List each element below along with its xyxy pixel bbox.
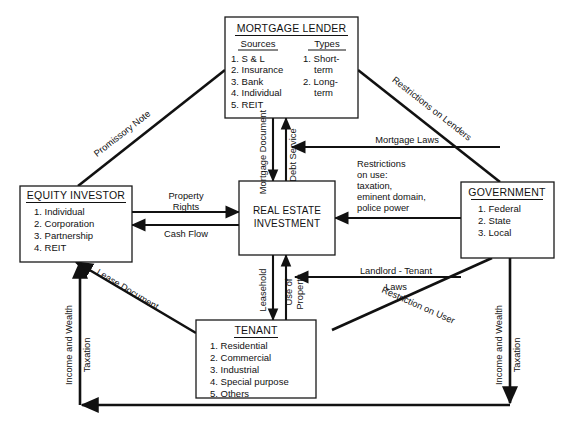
edge-label-mortgage-laws: Mortgage Laws: [375, 135, 439, 145]
node-mortgage-lender-source-1: 1. S & L: [231, 53, 265, 64]
node-mortgage-lender-type-1-cont: term: [314, 64, 333, 75]
node-tenant-item-2: 2. Commercial: [210, 352, 271, 363]
node-government[interactable]: GOVERNMENT 1. Federal 2. State 3. Local: [461, 182, 554, 258]
node-tenant-item-3: 3. Industrial: [210, 364, 259, 375]
node-real-estate-investment-title-line2: INVESTMENT: [254, 218, 320, 229]
node-real-estate-investment[interactable]: REAL ESTATE INVESTMENT: [239, 181, 335, 255]
node-equity-investor-item-3: 3. Partnership: [34, 230, 93, 241]
restrictions-on-use-line-4: eminent domain,: [357, 192, 426, 202]
node-tenant-item-1: 1. Residential: [210, 340, 268, 351]
node-equity-investor-item-4: 4. REIT: [34, 242, 66, 253]
node-mortgage-lender-types-header: Types: [314, 38, 340, 49]
edge-label-lease-document: Lease Document: [95, 267, 161, 312]
restrictions-on-use-line-2: on use:: [357, 170, 388, 180]
edge-label-restrictions-on-lenders: Restrictions on Lenders: [390, 75, 473, 143]
diagram-canvas: MORTGAGE LENDER Sources Types 1. S & L 2…: [0, 0, 574, 435]
node-mortgage-lender-type-1: 1. Short-: [303, 53, 339, 64]
node-mortgage-lender[interactable]: MORTGAGE LENDER Sources Types 1. S & L 2…: [225, 17, 358, 118]
edge-label-income-and-wealth-right: Income and Wealth: [494, 305, 504, 385]
edge-label-property-rights-line1: Property: [168, 191, 203, 201]
node-mortgage-lender-source-2: 2. Insurance: [231, 64, 283, 75]
node-equity-investor[interactable]: EQUITY INVESTOR 1. Individual 2. Corpora…: [20, 186, 132, 262]
node-mortgage-lender-source-4: 4. Individual: [231, 87, 282, 98]
node-tenant-item-4: 4. Special purpose: [210, 376, 289, 387]
edge-label-property-rights-line2: Rights: [173, 202, 200, 212]
node-government-item-2: 2. State: [478, 215, 511, 226]
node-real-estate-investment-title-line1: REAL ESTATE: [253, 205, 321, 216]
node-tenant-item-5: 5. Others: [210, 388, 249, 399]
edge-label-use-of-property-line2: Property: [295, 274, 305, 309]
edge-label-restrictions-on-use: Restrictions on use: taxation, eminent d…: [357, 159, 426, 213]
node-mortgage-lender-sources-header: Sources: [241, 38, 276, 49]
node-mortgage-lender-type-2: 2. Long-: [303, 76, 338, 87]
restrictions-on-use-line-1: Restrictions: [357, 159, 406, 169]
edge-label-landlord-tenant-line1: Landlord - Tenant: [360, 266, 433, 276]
edge-label-taxation-right: Taxation: [512, 338, 522, 373]
node-mortgage-lender-title: MORTGAGE LENDER: [237, 22, 347, 34]
restrictions-on-use-line-3: taxation,: [357, 181, 392, 191]
node-mortgage-lender-source-3: 3. Bank: [231, 76, 263, 87]
edge-label-use-of-property-line1: Use of: [284, 278, 294, 305]
edge-label-debt-service: Debt Service: [288, 128, 298, 181]
edge-label-taxation-left: Taxation: [82, 338, 92, 373]
node-mortgage-lender-source-5: 5. REIT: [231, 99, 263, 110]
restrictions-on-use-line-5: police power: [357, 203, 409, 213]
edge-promissory-note-line: [78, 70, 225, 186]
edge-label-mortgage-document: Mortgage Document: [258, 109, 268, 194]
node-tenant[interactable]: TENANT 1. Residential 2. Commercial 3. I…: [196, 320, 316, 399]
edge-label-leasehold: Leasehold: [258, 269, 268, 312]
node-government-item-3: 3. Local: [478, 227, 511, 238]
node-government-title: GOVERNMENT: [468, 186, 546, 198]
node-equity-investor-item-1: 1. Individual: [34, 206, 85, 217]
node-government-item-1: 1. Federal: [478, 203, 521, 214]
node-equity-investor-title: EQUITY INVESTOR: [27, 189, 126, 201]
node-equity-investor-item-2: 2. Corporation: [34, 218, 94, 229]
edge-label-income-and-wealth-left: Income and Wealth: [64, 305, 74, 385]
edge-label-cash-flow: Cash Flow: [164, 229, 208, 239]
node-mortgage-lender-type-2-cont: term: [314, 87, 333, 98]
node-tenant-title: TENANT: [234, 324, 278, 336]
relationship-diagram: MORTGAGE LENDER Sources Types 1. S & L 2…: [0, 0, 574, 435]
